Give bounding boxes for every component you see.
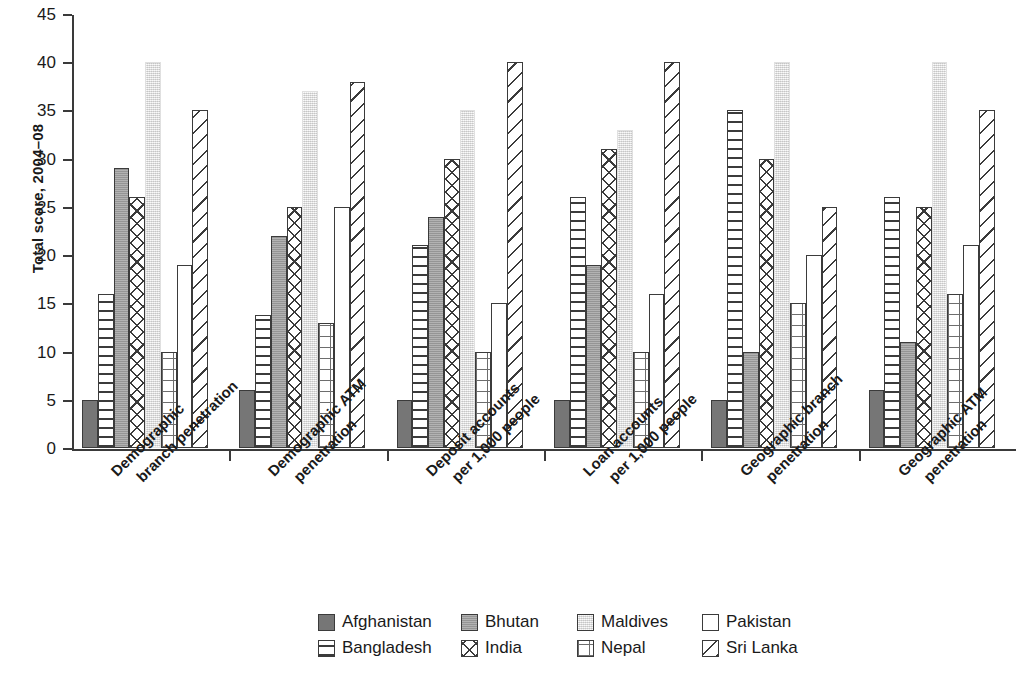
- legend-item[interactable]: India: [461, 638, 577, 658]
- y-axis-tick-label: 15: [37, 294, 56, 314]
- bar[interactable]: [271, 236, 287, 448]
- legend-item[interactable]: Sri Lanka: [702, 638, 802, 658]
- y-axis-tick: [63, 255, 72, 257]
- legend-item[interactable]: Pakistan: [702, 612, 802, 632]
- legend-label: Bhutan: [485, 612, 539, 632]
- y-axis-tick: [63, 303, 72, 305]
- x-axis-tick: [544, 451, 546, 461]
- legend-label: Afghanistan: [342, 612, 432, 632]
- bar[interactable]: [711, 400, 727, 448]
- legend-row-1: AfghanistanBhutanMaldivesPakistan: [318, 612, 808, 632]
- legend-swatch-icon: [318, 640, 335, 657]
- legend-swatch-icon: [702, 640, 719, 657]
- bar-group: [859, 15, 1016, 448]
- bar[interactable]: [601, 149, 617, 448]
- bar[interactable]: [397, 400, 413, 448]
- y-axis-tick: [63, 62, 72, 64]
- bar[interactable]: [412, 245, 428, 448]
- y-axis-tick-label: 5: [47, 391, 56, 411]
- bar[interactable]: [255, 315, 271, 448]
- y-axis-tick: [63, 14, 72, 16]
- legend-item[interactable]: Afghanistan: [318, 612, 461, 632]
- bar[interactable]: [759, 159, 775, 448]
- y-axis-tick-label: 35: [37, 101, 56, 121]
- bar[interactable]: [145, 62, 161, 448]
- x-axis-tick: [859, 451, 861, 461]
- y-axis-tick: [63, 207, 72, 209]
- bar[interactable]: [98, 294, 114, 448]
- bar[interactable]: [460, 110, 476, 448]
- bar[interactable]: [129, 197, 145, 448]
- bar[interactable]: [774, 62, 790, 448]
- x-axis-tick: [387, 451, 389, 461]
- y-axis-tick-label: 0: [47, 439, 56, 459]
- legend-swatch-icon: [318, 614, 335, 631]
- y-axis-tick-label: 40: [37, 53, 56, 73]
- bar[interactable]: [916, 207, 932, 448]
- bar[interactable]: [617, 130, 633, 448]
- x-axis-tick: [701, 451, 703, 461]
- bar[interactable]: [428, 217, 444, 448]
- bar[interactable]: [302, 91, 318, 448]
- legend-item[interactable]: Bhutan: [461, 612, 577, 632]
- bar[interactable]: [932, 62, 948, 448]
- y-axis-tick-label: 20: [37, 246, 56, 266]
- y-axis-tick: [63, 159, 72, 161]
- bar[interactable]: [570, 197, 586, 448]
- y-axis-tick-label: 10: [37, 343, 56, 363]
- legend-swatch-icon: [461, 614, 478, 631]
- y-axis-tick: [63, 352, 72, 354]
- legend-swatch-icon: [702, 614, 719, 631]
- legend-label: Sri Lanka: [726, 638, 798, 658]
- bar[interactable]: [444, 159, 460, 448]
- bar[interactable]: [239, 390, 255, 448]
- y-axis-tick-label: 25: [37, 198, 56, 218]
- bar[interactable]: [114, 168, 130, 448]
- bar[interactable]: [727, 110, 743, 448]
- legend-label: Nepal: [601, 638, 645, 658]
- bar[interactable]: [869, 390, 885, 448]
- legend-swatch-icon: [577, 640, 594, 657]
- legend-label: Bangladesh: [342, 638, 432, 658]
- legend-label: India: [485, 638, 522, 658]
- legend: AfghanistanBhutanMaldivesPakistan Bangla…: [318, 612, 808, 664]
- bar[interactable]: [586, 265, 602, 448]
- legend-swatch-icon: [577, 614, 594, 631]
- bar[interactable]: [743, 352, 759, 448]
- bar[interactable]: [287, 207, 303, 448]
- y-axis-tick: [63, 448, 72, 450]
- legend-label: Pakistan: [726, 612, 791, 632]
- bar[interactable]: [82, 400, 98, 448]
- bar[interactable]: [884, 197, 900, 448]
- legend-label: Maldives: [601, 612, 668, 632]
- y-axis-tick: [63, 110, 72, 112]
- y-axis-tick-label: 45: [37, 5, 56, 25]
- legend-swatch-icon: [461, 640, 478, 657]
- bar[interactable]: [554, 400, 570, 448]
- legend-row-2: BangladeshIndiaNepalSri Lanka: [318, 638, 808, 658]
- legend-item[interactable]: Bangladesh: [318, 638, 461, 658]
- x-axis-tick: [229, 451, 231, 461]
- bar[interactable]: [900, 342, 916, 448]
- legend-item[interactable]: Nepal: [577, 638, 702, 658]
- y-axis-tick-label: 30: [37, 150, 56, 170]
- legend-item[interactable]: Maldives: [577, 612, 702, 632]
- y-axis-tick: [63, 400, 72, 402]
